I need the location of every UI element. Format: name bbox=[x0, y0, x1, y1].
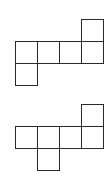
net-square bbox=[81, 104, 104, 127]
net-square bbox=[37, 148, 60, 171]
net-square bbox=[59, 126, 82, 149]
net-square bbox=[37, 126, 60, 149]
cube-net-bottom bbox=[0, 0, 108, 181]
net-square bbox=[15, 126, 38, 149]
net-square bbox=[81, 126, 104, 149]
